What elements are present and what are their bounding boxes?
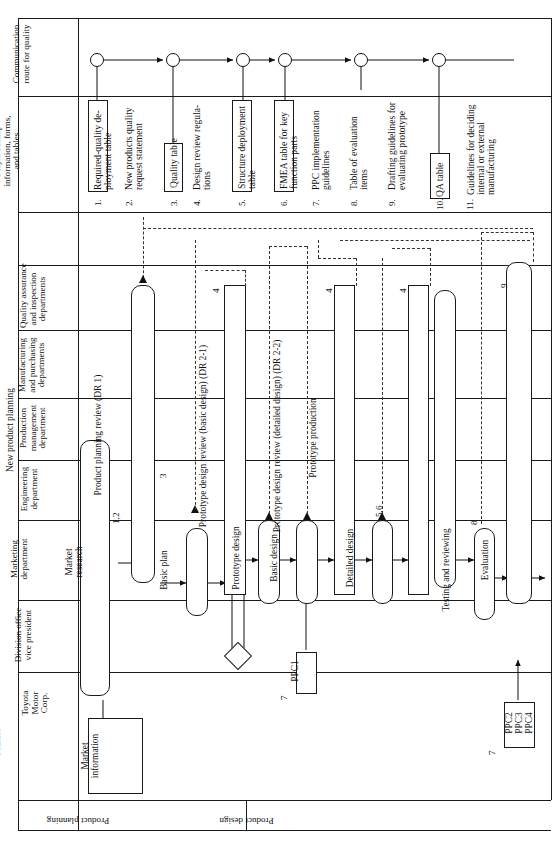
diagram-canvas: Communication route for quality Major ba… <box>0 0 557 848</box>
node-new-product-planning-label: New product planning <box>6 290 16 570</box>
comm-node-2[interactable] <box>166 53 180 67</box>
backup-item-4-text: Design review regula- tions <box>192 98 212 190</box>
backup-item-2-number: 2. <box>125 199 135 206</box>
backup-item-8-text: Table of evaluation items <box>349 102 369 190</box>
backup-item-6-number: 6. <box>280 199 290 206</box>
node-detailed-design[interactable] <box>372 520 393 604</box>
node-evaluation[interactable] <box>506 262 532 604</box>
backup-item-5-text: Structure deployment table <box>237 101 257 189</box>
node-pdr-basic-design-label: Prototype design review (basic design) (… <box>199 287 209 585</box>
lane-header-qa: Quality assurance and inspection departm… <box>19 270 48 328</box>
node-market-information-label: Market information <box>81 722 101 790</box>
annotation-4-b: 4 <box>325 288 335 293</box>
backup-item-11-number: 11. <box>466 199 476 210</box>
node-pdr-detailed-design[interactable] <box>408 285 429 595</box>
frame-right-line <box>551 18 552 800</box>
lane-header-tmc: Toyota Motor Corp. <box>21 676 50 730</box>
dashed-link-6 <box>307 246 308 514</box>
backup-item-10-number: 10. <box>436 199 446 210</box>
comm-node-5[interactable] <box>354 53 368 67</box>
node-decision-diamond[interactable] <box>224 642 252 670</box>
lane-header-market: Market <box>0 687 3 797</box>
backup-item-9-number: 9. <box>388 199 398 206</box>
node-new-product-planning[interactable] <box>131 285 155 583</box>
dashed-link-56-detailed <box>382 258 383 514</box>
backup-item-2-text: New products quality request statement <box>124 98 144 190</box>
annotation-3: 3 <box>159 473 169 478</box>
backup-item-5-number: 5. <box>238 199 248 206</box>
lane-bottom-line <box>18 800 551 801</box>
dashed-link-3 <box>195 240 196 510</box>
backup-item-3-text: Quality table <box>169 144 179 188</box>
node-pdr-detailed-design-label: Prototype design review (detailed design… <box>273 287 283 585</box>
node-basic-plan-label: Basic plan <box>160 530 170 610</box>
dashed-link-4b-v <box>356 258 357 286</box>
annotation-5-6: 5,6 <box>375 506 385 517</box>
dashed-link-4b-v2 <box>318 240 319 258</box>
row-sep-backup <box>18 212 551 213</box>
comm-node-4[interactable] <box>278 53 292 67</box>
annotation-4-c: 4 <box>399 288 409 293</box>
phase-bottom-line <box>18 830 551 831</box>
dashed-link-4c-h <box>392 248 430 249</box>
lane-header-mfg: Manufacturing and purchasing departments <box>18 335 47 395</box>
lane-header-vp: Division office vice president <box>14 601 33 669</box>
backup-item-4-number: 4. <box>193 199 203 206</box>
node-ppc1-label: PPC1 <box>291 652 301 690</box>
backup-item-9-text: Drafting guidelines for evaluating proto… <box>387 94 407 190</box>
annotation-7-b: 7 <box>488 750 498 755</box>
dashed-link-9-h <box>481 232 533 233</box>
node-ppc234-label: PPC2 PPC3 PPC4 <box>505 702 535 744</box>
lane-header-pmd: Production management department <box>19 399 48 457</box>
dashed-link-top-rail <box>340 240 530 241</box>
dashed-link-5 <box>269 246 270 514</box>
node-product-planning-review-label: Product planning review (DR 1) <box>94 290 104 580</box>
backup-item-6-text: FMEA table for key function parts <box>279 101 299 189</box>
dashed-link-4a-h <box>205 270 245 271</box>
backup-item-10-text: QA table <box>435 155 445 197</box>
dashed-link-4c-v <box>430 248 431 286</box>
frame-top-line <box>18 18 551 19</box>
dashed-link-56-rail <box>269 246 307 247</box>
dashed-link-2 <box>143 217 144 283</box>
backup-item-7-text: PPC implementation guidelines <box>311 102 331 190</box>
backup-item-8-number: 8. <box>350 199 360 206</box>
backup-item-7-number: 7. <box>312 199 322 206</box>
backup-item-3-number: 3. <box>170 199 180 206</box>
annotation-8: 8 <box>470 520 480 525</box>
backup-item-1-text: Required-quality de- ployment table <box>93 102 113 190</box>
dashed-qa-rail <box>143 228 533 229</box>
row-header-communication: Communication route for quality <box>12 18 31 90</box>
row-header-backup: Major backup information, forms, and tab… <box>0 96 22 206</box>
node-prototype-design-label: Prototype design <box>232 518 242 598</box>
lane-sep-qa <box>18 265 551 266</box>
lane-header-eng: Engineering department <box>20 461 39 517</box>
dashed-link-8 <box>481 232 482 524</box>
comm-node-6[interactable] <box>432 53 446 67</box>
annotation-1-2: 1,2 <box>112 513 122 524</box>
header-col-sep <box>78 18 79 830</box>
comm-node-3[interactable] <box>236 53 250 67</box>
annotation-9: 9 <box>500 283 510 288</box>
node-evaluation-label: Evaluation <box>481 520 491 600</box>
node-testing-reviewing-label: Testing and reviewing <box>442 524 452 616</box>
row-sep-communication <box>18 96 551 97</box>
node-detailed-design-label: Detailed design <box>346 518 356 598</box>
dashed-link-4b-h <box>318 258 356 259</box>
node-prototype-production-label: Prototype production <box>309 298 319 578</box>
dashed-link-9-v <box>533 232 534 262</box>
annotation-4-a: 4 <box>212 288 222 293</box>
backup-item-11-text: Guidelines for deciding internal or exte… <box>466 99 496 195</box>
dashed-link-4a-v <box>245 270 246 286</box>
node-market-research-label: Market research <box>65 532 85 592</box>
annotation-7-a: 7 <box>280 695 290 700</box>
comm-node-1[interactable] <box>90 53 104 67</box>
backup-item-1-number: 1. <box>94 199 104 206</box>
phase-label-product-design: Product design <box>94 815 399 825</box>
